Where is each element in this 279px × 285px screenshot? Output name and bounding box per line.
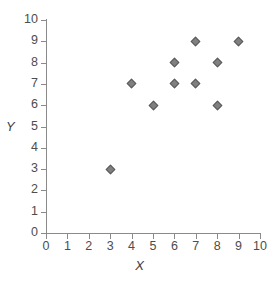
y-tick-label: 7: [16, 77, 38, 90]
x-tick-label: 1: [55, 240, 79, 253]
y-tick-label: 5: [16, 120, 38, 133]
x-tick-label: 10: [248, 240, 272, 253]
x-tick-label: 3: [98, 240, 122, 253]
x-tick-label: 9: [227, 240, 251, 253]
scatter-plot: 012345678910 012345678910 Y X: [0, 0, 279, 285]
x-tick-label: 2: [77, 240, 101, 253]
y-tick-label: 4: [16, 141, 38, 154]
y-tick-label: 0: [16, 226, 38, 239]
x-tick-label: 6: [162, 240, 186, 253]
y-tick-label: 10: [16, 13, 38, 26]
x-tick-label: 7: [184, 240, 208, 253]
y-tick-label: 8: [16, 56, 38, 69]
y-tick-label: 1: [16, 205, 38, 218]
y-tick-label: 3: [16, 162, 38, 175]
x-tick-label: 0: [34, 240, 58, 253]
x-tick-label: 8: [205, 240, 229, 253]
y-tick-label: 6: [16, 98, 38, 111]
y-tick-label: 2: [16, 183, 38, 196]
x-axis-title: X: [0, 258, 279, 273]
x-tick-label: 5: [141, 240, 165, 253]
y-tick-label: 9: [16, 34, 38, 47]
y-axis-title: Y: [6, 119, 15, 134]
plot-area: [46, 20, 260, 233]
x-tick-label: 4: [120, 240, 144, 253]
